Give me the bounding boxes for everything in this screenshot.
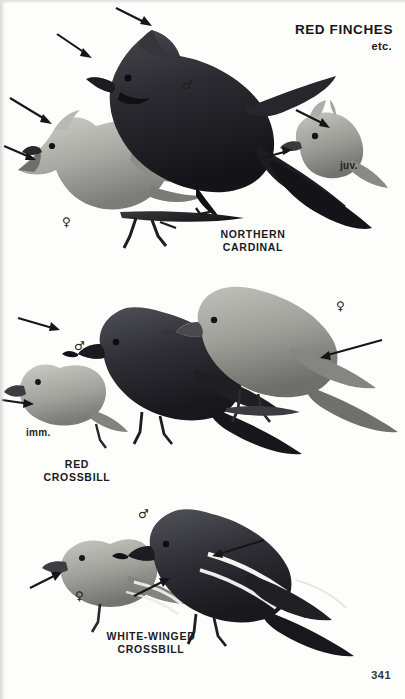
- female-symbol-red-crossbill: ♀: [336, 300, 345, 312]
- arrow-to-immature-bill: [0, 258, 405, 470]
- female-symbol-cardinal: ♀: [62, 216, 71, 228]
- plate-title: RED FINCHES: [295, 22, 393, 37]
- field-guide-plate: RED FINCHES etc. NORTHERN CARDINAL RED C…: [0, 0, 405, 699]
- female-symbol-white-winged-crossbill: ♀: [75, 590, 84, 602]
- panel-red-crossbill: [0, 258, 405, 470]
- immature-label-red-crossbill: imm.: [26, 427, 51, 438]
- page-number: 341: [371, 669, 391, 681]
- male-symbol-cardinal: ♂: [182, 79, 193, 91]
- male-symbol-white-winged-crossbill: ♂: [138, 508, 149, 520]
- plate-subtitle: etc.: [371, 40, 392, 52]
- arrow-to-juvenile-face: [0, 0, 405, 258]
- juvenile-label-cardinal: juv.: [340, 160, 358, 171]
- plate-inner: RED FINCHES etc. NORTHERN CARDINAL RED C…: [0, 0, 405, 699]
- species-label-red-crossbill: RED CROSSBILL: [22, 458, 132, 484]
- species-label-northern-cardinal: NORTHERN CARDINAL: [198, 228, 308, 254]
- panel-northern-cardinal: [0, 0, 405, 258]
- species-label-white-winged-crossbill: WHITE-WINGED CROSSBILL: [76, 630, 226, 656]
- male-symbol-red-crossbill: ♂: [74, 340, 85, 352]
